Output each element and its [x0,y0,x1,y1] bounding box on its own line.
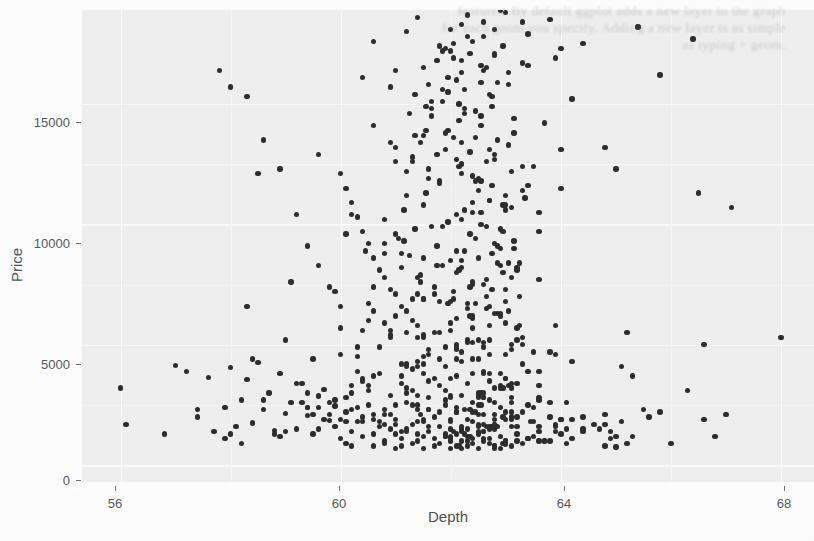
data-point [506,70,511,75]
data-point [536,429,541,434]
data-point [355,214,360,219]
data-point [443,402,448,407]
data-point [487,378,492,383]
data-point [619,419,624,424]
data-point [437,441,442,446]
data-point [360,328,365,333]
x-tick-label-64: 64 [557,496,571,511]
data-point [484,224,489,229]
data-point [569,359,574,364]
data-point [536,210,541,215]
data-point [437,356,442,361]
data-point [410,159,415,164]
data-point [421,371,426,376]
data-point [222,405,227,410]
y-tick-mark [76,243,81,244]
data-point [467,434,472,439]
data-point [525,63,530,68]
data-point [624,330,629,335]
data-point [448,395,453,400]
data-point [525,436,530,441]
data-point [371,431,376,436]
data-point [465,306,470,311]
data-point [459,22,464,27]
data-point [454,344,459,349]
data-point [478,123,483,128]
data-point [382,241,387,246]
data-point [299,381,304,386]
data-point [558,186,563,191]
data-point [366,318,371,323]
data-point [580,426,585,431]
data-point [277,166,282,171]
data-point [355,369,360,374]
data-point [294,381,299,386]
data-point [415,419,420,424]
data-point [410,296,415,301]
data-point [377,371,382,376]
data-point [514,337,519,342]
data-point [454,316,459,321]
data-point [371,373,376,378]
data-point [366,402,371,407]
data-point [255,171,260,176]
data-point [454,356,459,361]
data-point [495,137,500,142]
data-point [481,429,486,434]
data-point [514,265,519,270]
data-point [399,251,404,256]
data-point [388,393,393,398]
data-point [382,320,387,325]
data-point [547,349,552,354]
data-point [467,231,472,236]
data-point [462,248,467,253]
data-point [630,434,635,439]
data-point [558,46,563,51]
x-tick-label-60: 60 [332,496,346,511]
data-point [327,418,332,423]
data-point [418,279,423,284]
data-point [489,183,494,188]
data-point [448,376,453,381]
data-point [421,133,426,138]
data-point [476,255,481,260]
data-point [401,238,406,243]
data-point [412,133,417,138]
data-point [421,446,426,451]
data-point [525,402,530,407]
data-point [363,248,368,253]
data-point [514,381,519,386]
data-point [456,443,461,448]
data-point [382,441,387,446]
data-point [459,217,464,222]
data-point [547,438,552,443]
data-point [338,436,343,441]
data-point [410,402,415,407]
x-tick-mark [115,486,116,491]
data-point [470,371,475,376]
data-point [536,395,541,400]
data-point [426,166,431,171]
data-point [690,36,695,41]
data-point [283,337,288,342]
x-tick-label-68: 68 [777,496,791,511]
data-point [580,414,585,419]
data-point [509,424,514,429]
data-point [525,31,530,36]
data-point [432,330,437,335]
data-point [509,414,514,419]
y-tick-label-15000: 15000 [34,115,70,130]
data-point [382,217,387,222]
data-point [343,409,348,414]
data-point [481,412,486,417]
data-point [451,296,456,301]
data-point [522,195,527,200]
data-point [613,166,618,171]
data-point [525,369,530,374]
data-point [377,344,382,349]
data-point [454,409,459,414]
data-point [404,390,409,395]
data-point [602,145,607,150]
data-point [454,157,459,162]
data-point [415,393,420,398]
